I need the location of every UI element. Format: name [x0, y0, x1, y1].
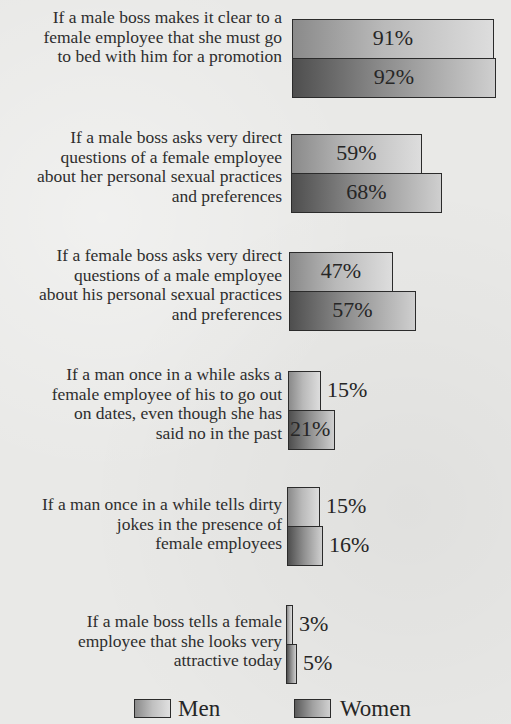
category-label-line: If a male boss asks very direct: [37, 128, 282, 148]
value-label-women: 5%: [303, 644, 332, 682]
category-label-line: to bed with him for a promotion: [43, 47, 282, 67]
category-label-line: female employees: [42, 534, 282, 554]
value-label-men: 15%: [326, 487, 366, 525]
value-label-women: 16%: [329, 526, 369, 564]
category-label-line: and preferences: [39, 305, 282, 325]
legend: Men Women: [0, 697, 511, 724]
legend-swatch-women: [294, 699, 331, 718]
value-label-men: 47%: [289, 252, 393, 290]
category-label: If a female boss asks very directquestio…: [39, 246, 282, 324]
category-label-line: If a male boss tells a female: [78, 612, 282, 632]
category-label: If a male boss tells a femaleemployee th…: [78, 612, 282, 671]
bar-men: [286, 605, 293, 645]
value-label-women: 68%: [291, 173, 442, 211]
category-label-line: jokes in the presence of: [42, 515, 282, 535]
bar-women: [287, 526, 323, 566]
category-label-line: attractive today: [78, 651, 282, 671]
value-label-men: 91%: [292, 19, 494, 57]
bar-men: [288, 371, 321, 411]
value-label-men: 59%: [291, 134, 422, 172]
category-label-line: female employee of his to go out: [52, 385, 282, 405]
legend-label-men: Men: [178, 695, 220, 722]
value-label-men: 3%: [299, 605, 328, 643]
category-label-line: about his personal sexual practices: [39, 285, 282, 305]
category-label-line: questions of a female employee: [37, 148, 282, 168]
value-label-women: 57%: [289, 291, 416, 329]
category-label-line: about her personal sexual practices: [37, 167, 282, 187]
legend-swatch-men: [134, 699, 171, 718]
category-label: If a man once in a while asks afemale em…: [52, 365, 282, 443]
category-label-line: on dates, even though she has: [52, 404, 282, 424]
category-label-line: said no in the past: [52, 424, 282, 444]
bar-men: [287, 487, 320, 527]
legend-label-women: Women: [340, 695, 411, 722]
category-label-line: female employee that she must go: [43, 28, 282, 48]
value-label-men: 15%: [327, 371, 367, 409]
category-label-line: employee that she looks very: [78, 632, 282, 652]
category-label-line: If a male boss makes it clear to a: [43, 8, 282, 28]
category-label: If a male boss makes it clear to afemale…: [43, 8, 282, 67]
category-label-line: and preferences: [37, 187, 282, 207]
category-label: If a man once in a while tells dirtyjoke…: [42, 495, 282, 554]
bar-women: [286, 644, 297, 684]
value-label-women: 92%: [292, 58, 496, 96]
category-label-line: If a female boss asks very direct: [39, 246, 282, 266]
category-label: If a male boss asks very directquestions…: [37, 128, 282, 206]
category-label-line: If a man once in a while tells dirty: [42, 495, 282, 515]
value-label-women: 21%: [290, 410, 330, 448]
category-label-line: If a man once in a while asks a: [52, 365, 282, 385]
category-label-line: questions of a male employee: [39, 266, 282, 286]
